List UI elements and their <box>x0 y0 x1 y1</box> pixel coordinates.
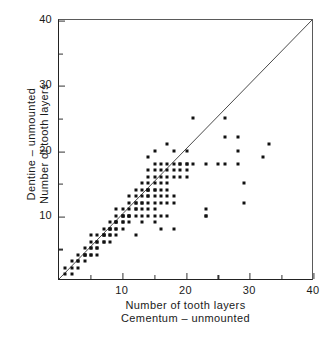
data-point <box>268 142 271 145</box>
x-tick-label: 30 <box>243 284 256 296</box>
data-point <box>160 162 163 165</box>
data-point <box>83 260 86 263</box>
x-axis-tick <box>122 273 123 279</box>
data-point <box>134 195 137 198</box>
data-point <box>204 214 207 217</box>
data-point <box>191 162 194 165</box>
data-point <box>115 214 118 217</box>
data-point <box>121 208 124 211</box>
y-axis-tick <box>59 216 65 217</box>
data-point <box>223 116 226 119</box>
data-point <box>172 201 175 204</box>
data-point <box>147 156 150 159</box>
x-axis-tick <box>90 275 91 279</box>
data-point <box>147 208 150 211</box>
data-point <box>96 234 99 237</box>
data-point <box>153 201 156 204</box>
data-point <box>153 221 156 224</box>
plot-area <box>58 19 313 280</box>
data-point <box>191 116 194 119</box>
data-point <box>242 201 245 204</box>
y-axis-tick <box>59 249 63 250</box>
data-point <box>185 169 188 172</box>
data-point <box>121 214 124 217</box>
x-axis-title-line-1: Number of tooth layers <box>58 299 313 312</box>
data-point <box>109 234 112 237</box>
data-point <box>223 162 226 165</box>
data-point <box>242 182 245 185</box>
data-point <box>96 253 99 256</box>
data-point <box>172 195 175 198</box>
data-point <box>102 234 105 237</box>
data-point <box>70 260 73 263</box>
data-point <box>70 273 73 276</box>
data-points-layer <box>59 20 312 279</box>
y-axis-title: Dentine – unmounted Number of tooth laye… <box>25 14 51 275</box>
data-point <box>160 175 163 178</box>
data-point <box>160 195 163 198</box>
data-point <box>140 182 143 185</box>
y-axis-title-line-1: Dentine – unmounted <box>25 14 38 275</box>
data-point <box>160 201 163 204</box>
data-point <box>140 188 143 191</box>
data-point <box>204 208 207 211</box>
data-point <box>172 175 175 178</box>
data-point <box>102 240 105 243</box>
data-point <box>153 208 156 211</box>
data-point <box>64 266 67 269</box>
data-point <box>236 136 239 139</box>
y-axis-tick <box>59 53 63 54</box>
data-point <box>109 227 112 230</box>
data-point <box>147 188 150 191</box>
data-point <box>134 214 137 217</box>
data-point <box>166 188 169 191</box>
y-axis-tick <box>59 151 65 152</box>
data-point <box>89 234 92 237</box>
x-axis-tick <box>186 273 187 279</box>
data-point <box>77 260 80 263</box>
data-point <box>172 149 175 152</box>
data-point <box>115 234 118 237</box>
data-point <box>140 221 143 224</box>
data-point <box>153 175 156 178</box>
data-point <box>179 169 182 172</box>
data-point <box>134 208 137 211</box>
data-point <box>166 169 169 172</box>
data-point <box>185 162 188 165</box>
data-point <box>153 149 156 152</box>
data-point <box>134 201 137 204</box>
data-point <box>128 201 131 204</box>
data-point <box>160 214 163 217</box>
x-axis-tick <box>282 275 283 279</box>
data-point <box>128 195 131 198</box>
data-point <box>217 162 220 165</box>
data-point <box>115 227 118 230</box>
data-point <box>70 266 73 269</box>
data-point <box>140 195 143 198</box>
data-point <box>153 214 156 217</box>
data-point <box>262 156 265 159</box>
data-point <box>77 253 80 256</box>
data-point <box>147 214 150 217</box>
x-tick-label: 10 <box>115 284 128 296</box>
data-point <box>134 188 137 191</box>
x-tick-label: 20 <box>179 284 192 296</box>
x-axis-tick <box>154 275 155 279</box>
data-point <box>96 247 99 250</box>
data-point <box>128 208 131 211</box>
data-point <box>121 221 124 224</box>
y-axis-tick <box>59 21 65 22</box>
data-point <box>166 195 169 198</box>
data-point <box>179 162 182 165</box>
x-axis-tick <box>313 273 314 279</box>
data-point <box>153 162 156 165</box>
x-tick-label: 40 <box>307 284 320 296</box>
data-point <box>121 227 124 230</box>
data-point <box>153 182 156 185</box>
y-axis-tick <box>59 118 63 119</box>
x-axis-tick <box>250 273 251 279</box>
data-point <box>166 175 169 178</box>
scatter-plot-figure: 10203040 Dentine – unmounted Number of t… <box>0 0 333 337</box>
data-point <box>160 169 163 172</box>
data-point <box>172 162 175 165</box>
